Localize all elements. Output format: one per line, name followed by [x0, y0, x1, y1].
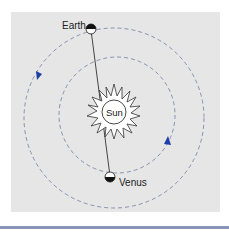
earth-label: Earth — [62, 21, 86, 31]
sun-label: Sun — [106, 108, 123, 118]
earth-icon — [86, 24, 96, 34]
direction-arrow-icon — [36, 71, 42, 80]
bottom-rule — [0, 226, 229, 229]
venus-label: Venus — [119, 178, 147, 188]
venus-icon — [105, 172, 115, 182]
direction-arrow-icon — [164, 136, 171, 145]
